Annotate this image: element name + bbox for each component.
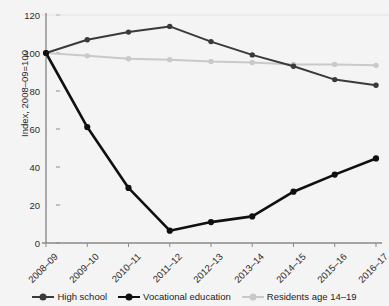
legend-label: Residents age 14–19 [267, 291, 357, 302]
data-point [167, 228, 173, 234]
legend-swatch-icon [32, 292, 54, 302]
data-point [290, 189, 296, 195]
legend-label: Vocational education [143, 291, 231, 302]
data-point [332, 172, 338, 178]
data-point [332, 62, 337, 67]
data-point [373, 155, 379, 161]
legend-swatch-icon [242, 292, 264, 302]
series-line [46, 53, 376, 231]
data-point [208, 219, 214, 225]
data-point [208, 59, 213, 64]
data-point [249, 213, 255, 219]
data-point [167, 57, 172, 62]
data-point [250, 52, 255, 57]
chart-container: Index, 2008–09=100 020406080100120 2008–… [0, 0, 389, 306]
data-point [167, 24, 172, 29]
data-point [84, 124, 90, 130]
legend-item[interactable]: Vocational education [118, 291, 231, 302]
chart-legend: High schoolVocational educationResidents… [0, 291, 389, 302]
data-point [208, 39, 213, 44]
data-point [85, 53, 90, 58]
legend-item[interactable]: Residents age 14–19 [242, 291, 357, 302]
data-point [85, 37, 90, 42]
legend-swatch-icon [118, 292, 140, 302]
series-residents-age-14-19 [43, 50, 378, 68]
data-point [250, 60, 255, 65]
data-point [126, 56, 131, 61]
legend-item[interactable]: High school [32, 291, 107, 302]
data-point [125, 185, 131, 191]
data-point [291, 64, 296, 69]
legend-label: High school [57, 291, 107, 302]
data-point [373, 63, 378, 68]
data-point [126, 29, 131, 34]
data-point [43, 50, 49, 56]
data-point [373, 83, 378, 88]
data-point [332, 77, 337, 82]
